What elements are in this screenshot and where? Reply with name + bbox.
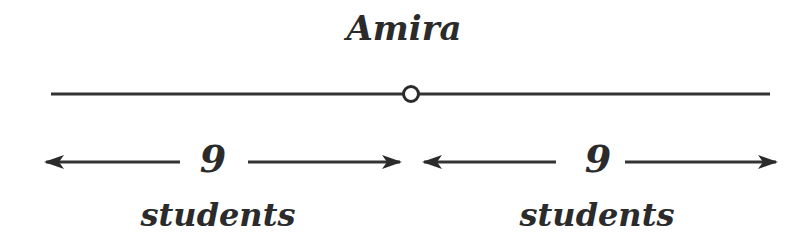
left-count: 9 xyxy=(193,136,233,181)
right-count: 9 xyxy=(578,136,618,181)
center-point-circle xyxy=(404,87,419,102)
left-label: students xyxy=(118,196,318,234)
right-label: students xyxy=(497,196,697,234)
